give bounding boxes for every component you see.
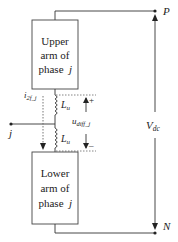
upper-arm-line2: arm of	[40, 49, 69, 61]
circuit-diagram: Upper arm of phase j Lu j Lu + – udiff_j…	[0, 0, 178, 242]
node-n	[153, 231, 156, 234]
node-j	[9, 122, 12, 125]
node-n-label: N	[162, 220, 171, 232]
vdc-down-arrowhead-icon	[152, 223, 158, 230]
upper-inductor-icon	[55, 95, 57, 124]
top-wire	[55, 11, 155, 20]
node-j-label: j	[7, 127, 12, 139]
lower-arm-line2: arm of	[40, 182, 69, 194]
udiff-label: udiff_j	[72, 116, 90, 127]
vdc-up-arrowhead-icon	[152, 14, 158, 21]
bottom-wire	[55, 224, 155, 233]
node-p-label: P	[162, 5, 170, 17]
current-arrowhead-icon	[40, 143, 46, 150]
lower-inductor-label: Lu	[60, 133, 71, 146]
lower-inductor-icon	[55, 124, 57, 152]
upper-arm-line3: phase	[38, 63, 63, 75]
upper-arm-line1: Upper	[41, 35, 69, 47]
lower-arm-line1: Lower	[41, 167, 70, 179]
udiff-minus: –	[88, 140, 94, 150]
udiff-plus: +	[89, 95, 94, 105]
current-label: i2f_j	[24, 90, 37, 101]
node-p	[153, 9, 156, 12]
lower-arm-line3: phase	[38, 197, 63, 209]
vdc-label: Vdc	[146, 119, 160, 133]
upper-inductor-label: Lu	[60, 99, 71, 112]
